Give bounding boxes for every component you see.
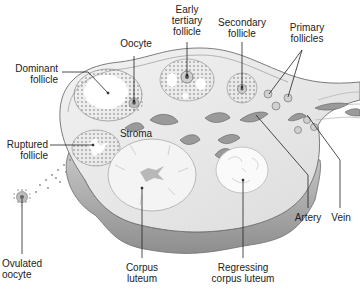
label-line: follicle (6, 74, 58, 85)
label-artery: Artery (290, 212, 326, 223)
ovary-diagram (0, 0, 360, 297)
label-line: Oocyte (116, 38, 156, 49)
label-corpus-luteum: Corpus luteum (122, 262, 162, 284)
label-vein: Vein (328, 212, 354, 223)
label-dominant-follicle: Dominant follicle (6, 63, 58, 85)
label-line: follicle (167, 26, 207, 37)
label-secondary-follicle: Secondary follicle (214, 17, 270, 39)
label-oocyte: Oocyte (116, 38, 156, 49)
label-line: luteum (122, 273, 162, 284)
label-line: oocyte (2, 269, 52, 280)
label-ruptured-follicle: Ruptured follicle (2, 139, 48, 161)
released-cells (35, 159, 71, 193)
label-line: corpus luteum (208, 273, 278, 284)
label-line: Ovulated (2, 258, 52, 269)
label-line: follicle (214, 28, 270, 39)
label-line: follicle (2, 150, 48, 161)
label-stroma: Stroma (116, 128, 156, 139)
label-line: Secondary (214, 17, 270, 28)
corpus-luteum (108, 139, 196, 211)
dominant-follicle (74, 69, 143, 121)
label-line: Vein (328, 212, 354, 223)
label-line: Primary (282, 22, 332, 33)
label-regressing-corpus-luteum: Regressing corpus luteum (208, 262, 278, 284)
label-line: Regressing (208, 262, 278, 273)
regressing-corpus-luteum (216, 147, 268, 193)
label-line: Artery (290, 212, 326, 223)
label-primary-follicles: Primary follicles (282, 22, 332, 44)
label-line: Stroma (116, 128, 156, 139)
label-line: Ruptured (2, 139, 48, 150)
label-line: Dominant (6, 63, 58, 74)
label-line: tertiary (167, 15, 207, 26)
label-line: follicles (282, 33, 332, 44)
label-line: Early (167, 4, 207, 15)
label-ovulated-oocyte: Ovulated oocyte (2, 258, 52, 280)
label-early-tertiary-follicle: Early tertiary follicle (167, 4, 207, 37)
label-line: Corpus (122, 262, 162, 273)
